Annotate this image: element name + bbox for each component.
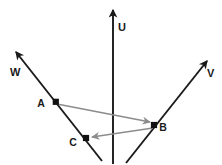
diagram-background (0, 0, 222, 165)
vector-diagram-container: W U V A B (0, 0, 222, 165)
point-b-label: B (159, 121, 167, 133)
vector-diagram: W U V A B (0, 0, 222, 165)
point-c-label: C (69, 136, 77, 148)
u-axis-label: U (118, 21, 126, 33)
point-a-marker (53, 99, 59, 105)
w-axis-label: W (10, 66, 21, 78)
point-b-marker (151, 122, 157, 128)
point-c-marker (83, 135, 89, 141)
v-axis-label: V (207, 67, 215, 79)
point-a-label: A (37, 97, 45, 109)
